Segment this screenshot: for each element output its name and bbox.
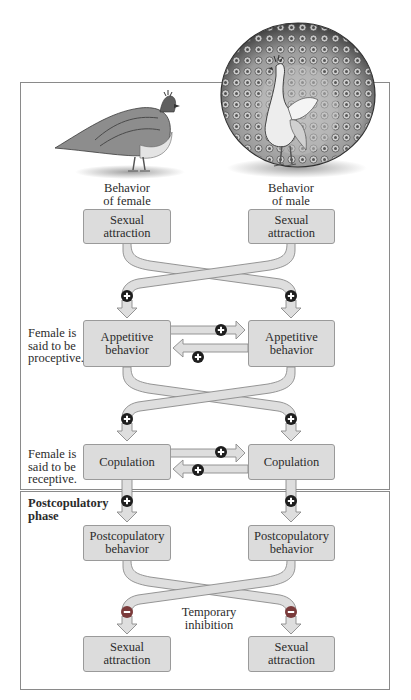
male-sexual-attraction-after-box: Sexualattraction (248, 636, 335, 672)
box-text: behavior (101, 344, 154, 357)
box-text: behavior (254, 543, 329, 556)
female-sexual-attraction-box: Sexualattraction (83, 209, 171, 244)
appetitive-female-to-male-arrow (170, 321, 245, 339)
arrowhead-female-appetitive (117, 300, 137, 318)
box-text: behavior (90, 543, 165, 556)
box-text: behavior (265, 344, 318, 357)
note-line: Female is (28, 327, 84, 340)
plus-icon (192, 351, 204, 363)
male-copulation-box: Copulation (248, 444, 335, 480)
receptive-note: Female is said to be receptive. (28, 448, 77, 486)
plus-icon (285, 413, 297, 425)
box-text: Sexual (103, 214, 150, 227)
note-line: proceptive. (28, 352, 84, 365)
box-text: Appetitive (101, 331, 154, 344)
appetitive-male-to-female-arrow (173, 339, 248, 357)
female-copulation-box: Copulation (83, 444, 171, 480)
arrowhead-male-copulation (281, 423, 301, 441)
note-line: Female is (28, 448, 77, 461)
note-line: receptive. (28, 473, 77, 486)
box-text: Appetitive (265, 331, 318, 344)
box-text: Sexual (268, 214, 315, 227)
minus-icon (285, 606, 297, 618)
plus-icon (285, 495, 297, 507)
arrowhead-female-sexual-attraction (117, 616, 137, 634)
postcopulatory-phase-heading: Postcopulatory phase (28, 497, 109, 522)
female-appetitive-behavior-box: Appetitivebehavior (83, 320, 171, 367)
box-text: attraction (268, 227, 315, 240)
box-text: Copulation (99, 456, 155, 469)
box-text: attraction (103, 227, 150, 240)
female-sexual-attraction-after-box: Sexualattraction (83, 636, 171, 672)
male-appetitive-behavior-box: Appetitivebehavior (248, 320, 335, 367)
phase-line: Postcopulatory (28, 497, 109, 510)
arrowhead-male-appetitive (281, 300, 301, 318)
female-postcopulatory-behavior-box: Postcopulatorybehavior (83, 525, 171, 561)
male-sexual-attraction-box: Sexualattraction (248, 209, 335, 244)
phase-line: phase (28, 510, 109, 523)
copulation-female-to-male-arrow (170, 444, 245, 462)
copulation-male-to-female-arrow (173, 460, 248, 478)
plus-icon (215, 446, 227, 458)
arrowhead-female-copulation (117, 423, 137, 441)
proceptive-note: Female is said to be proceptive. (28, 327, 84, 365)
plus-icon (192, 464, 204, 476)
box-text: attraction (103, 654, 150, 667)
plus-icon (285, 290, 297, 302)
annotation-line: Temporary (170, 606, 248, 619)
annotation-line: inhibition (170, 619, 248, 632)
arrowhead-male-sexual-attraction (281, 616, 301, 634)
box-text: Copulation (264, 456, 320, 469)
plus-icon (121, 495, 133, 507)
temporary-inhibition-label: Temporary inhibition (170, 606, 248, 631)
plus-icon (121, 290, 133, 302)
minus-icon (121, 606, 133, 618)
plus-icon (215, 324, 227, 336)
male-postcopulatory-behavior-box: Postcopulatorybehavior (248, 525, 335, 561)
box-text: attraction (268, 654, 315, 667)
plus-icon (121, 413, 133, 425)
